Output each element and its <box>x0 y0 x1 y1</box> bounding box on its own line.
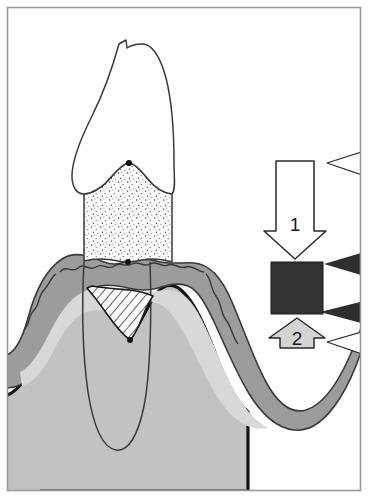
marker-pocket-base <box>127 337 133 343</box>
arrow-down-1-label: 1 <box>290 214 301 235</box>
marker-gingival-margin <box>125 259 131 265</box>
figure-root: 1 2 <box>0 0 368 498</box>
dark-block <box>271 262 323 314</box>
periodontal-diagram: 1 2 <box>0 0 368 498</box>
marker-cej <box>126 160 132 166</box>
arrow-up-2-label: 2 <box>292 328 303 349</box>
